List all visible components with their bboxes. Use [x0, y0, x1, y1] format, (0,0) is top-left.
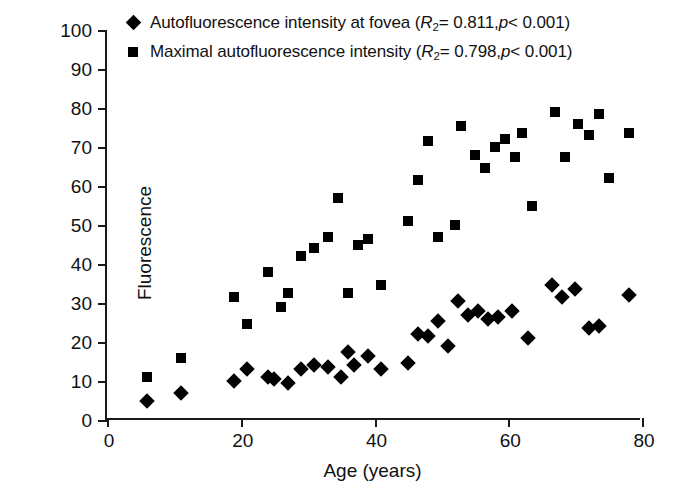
y-tick-40: 40 [98, 264, 107, 266]
y-tick-label-90: 90 [71, 59, 92, 81]
data-point-square [480, 163, 490, 173]
data-point-diamond [544, 278, 560, 294]
data-point-diamond [567, 282, 583, 298]
data-point-square [470, 150, 480, 160]
y-tick-50: 50 [98, 225, 107, 227]
data-point-square [550, 107, 560, 117]
data-point-square [343, 288, 353, 298]
data-points-layer [107, 30, 642, 420]
data-point-diamond [554, 289, 570, 305]
data-point-square [456, 121, 466, 131]
data-point-square [527, 201, 537, 211]
data-point-square [624, 128, 634, 138]
data-point-square [500, 134, 510, 144]
y-tick-0: 0 [98, 420, 107, 422]
y-tick-90: 90 [98, 69, 107, 71]
data-point-square [142, 372, 152, 382]
y-axis-title: Fluorescence [134, 143, 156, 343]
data-point-diamond [591, 319, 607, 335]
data-point-diamond [621, 287, 637, 303]
data-point-square [276, 302, 286, 312]
data-point-diamond [226, 373, 242, 389]
data-point-square [283, 288, 293, 298]
data-point-diamond [373, 362, 389, 378]
data-point-square [604, 173, 614, 183]
data-point-square [584, 130, 594, 140]
data-point-square [517, 128, 527, 138]
y-tick-label-0: 0 [81, 410, 92, 432]
y-tick-label-40: 40 [71, 254, 92, 276]
y-tick-label-100: 100 [60, 20, 92, 42]
data-point-square [376, 280, 386, 290]
data-point-square [353, 240, 363, 250]
y-tick-30: 30 [98, 303, 107, 305]
data-point-square [594, 109, 604, 119]
data-point-square [510, 152, 520, 162]
data-point-square [363, 234, 373, 244]
y-tick-label-30: 30 [71, 293, 92, 315]
y-tick-10: 10 [98, 381, 107, 383]
data-point-diamond [173, 385, 189, 401]
data-point-diamond [307, 358, 323, 374]
data-point-square [242, 319, 252, 329]
data-point-square [490, 142, 500, 152]
data-point-square [423, 136, 433, 146]
data-point-square [229, 292, 239, 302]
data-point-square [450, 220, 460, 230]
data-point-diamond [139, 393, 155, 409]
x-tick-label-80: 80 [633, 430, 654, 452]
scatter-plot-figure: Autofluorescence intensity at fovea (R2 … [0, 0, 695, 494]
y-tick-100: 100 [98, 30, 107, 32]
y-tick-60: 60 [98, 186, 107, 188]
data-point-diamond [521, 330, 537, 346]
x-tick-80: 80 [642, 418, 644, 427]
data-point-square [309, 243, 319, 253]
y-tick-label-60: 60 [71, 176, 92, 198]
y-tick-70: 70 [98, 147, 107, 149]
data-point-diamond [333, 369, 349, 385]
y-tick-label-80: 80 [71, 98, 92, 120]
data-point-diamond [320, 360, 336, 376]
x-tick-label-60: 60 [500, 430, 521, 452]
y-tick-label-20: 20 [71, 332, 92, 354]
data-point-square [176, 353, 186, 363]
y-tick-80: 80 [98, 108, 107, 110]
data-point-diamond [400, 356, 416, 372]
data-point-diamond [347, 358, 363, 374]
data-point-square [323, 232, 333, 242]
data-point-square [403, 216, 413, 226]
data-point-diamond [504, 303, 520, 319]
x-tick-label-20: 20 [232, 430, 253, 452]
data-point-square [296, 251, 306, 261]
x-axis-title: Age (years) [105, 460, 640, 482]
y-tick-label-70: 70 [71, 137, 92, 159]
data-point-square [263, 267, 273, 277]
x-tick-label-40: 40 [366, 430, 387, 452]
data-point-square [333, 193, 343, 203]
y-tick-label-50: 50 [71, 215, 92, 237]
data-point-square [433, 232, 443, 242]
x-tick-label-0: 0 [104, 430, 115, 452]
data-point-diamond [360, 348, 376, 364]
data-point-diamond [430, 313, 446, 329]
data-point-square [560, 152, 570, 162]
data-point-square [413, 175, 423, 185]
data-point-diamond [240, 362, 256, 378]
y-tick-20: 20 [98, 342, 107, 344]
diamond-marker-icon [128, 17, 150, 28]
data-point-diamond [280, 375, 296, 391]
plot-area: 0102030405060708090100 020406080 Fluores… [105, 30, 640, 420]
data-point-square [573, 119, 583, 129]
data-point-diamond [450, 293, 466, 309]
data-point-diamond [440, 338, 456, 354]
y-tick-label-10: 10 [71, 371, 92, 393]
